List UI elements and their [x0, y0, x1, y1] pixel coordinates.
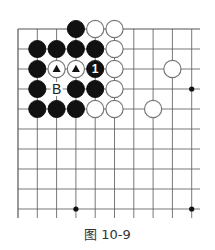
- point-label-B: B: [52, 81, 61, 97]
- white-stone: [106, 40, 123, 57]
- black-stone: [87, 40, 104, 57]
- black-stone: [29, 100, 46, 117]
- white-stone: [87, 20, 104, 37]
- figure-caption: 图 10-9: [0, 224, 215, 243]
- black-stone: [67, 100, 84, 117]
- white-stone: [164, 60, 181, 77]
- black-stone: [67, 40, 84, 57]
- black-stone: [67, 20, 84, 37]
- black-stone: [48, 100, 65, 117]
- black-stone: [29, 40, 46, 57]
- black-stone: [67, 80, 84, 97]
- black-stone: [48, 40, 65, 57]
- white-stone: [106, 80, 123, 97]
- white-stone: [106, 20, 123, 37]
- white-stone: [145, 100, 162, 117]
- move-number-label: 1: [92, 62, 99, 76]
- black-stone: [87, 80, 104, 97]
- black-stone: [29, 60, 46, 77]
- star-point: [189, 86, 194, 91]
- white-stone: [106, 60, 123, 77]
- star-point: [189, 206, 194, 211]
- star-point: [73, 206, 78, 211]
- white-stone: [87, 100, 104, 117]
- white-stone: [106, 100, 123, 117]
- go-board: 1B: [0, 0, 215, 225]
- black-stone: [29, 80, 46, 97]
